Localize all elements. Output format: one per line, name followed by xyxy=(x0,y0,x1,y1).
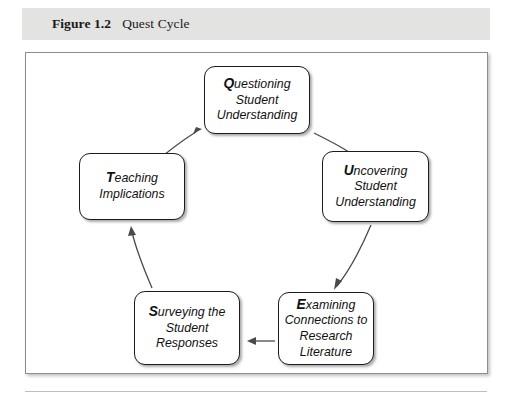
node-questioning-line-2: Student xyxy=(236,93,279,109)
node-uncovering-rest: ncovering xyxy=(354,164,408,178)
node-questioning[interactable]: Questioning Student Understanding xyxy=(204,66,310,134)
node-examining-line-2: Connections to xyxy=(285,313,368,329)
node-uncovering-line-2: Student xyxy=(354,179,397,195)
node-uncovering-initial: U xyxy=(344,163,354,178)
node-teaching-initial: T xyxy=(106,170,114,185)
node-examining-line-1: Examining xyxy=(297,297,356,314)
arrow-surveying-to-teaching xyxy=(128,226,152,288)
arrow-uncovering-to-examining xyxy=(334,225,371,290)
node-questioning-initial: Q xyxy=(223,76,234,91)
node-teaching-rest: eaching xyxy=(115,171,158,185)
figure-frame: Questioning Student Understanding Uncove… xyxy=(25,52,488,374)
node-surveying-rest: urveying the xyxy=(158,305,226,319)
node-examining-line-4: Literature xyxy=(300,345,352,361)
node-surveying-line-3: Responses xyxy=(156,336,218,352)
figure-caption-label: Figure 1.2 xyxy=(52,16,111,31)
node-examining-initial: E xyxy=(297,297,306,312)
figure-caption: Figure 1.2Quest Cycle xyxy=(22,0,190,48)
node-surveying-line-1: Surveying the xyxy=(149,304,226,321)
node-questioning-line-3: Understanding xyxy=(217,108,298,124)
page-bottom-rule xyxy=(25,391,487,392)
figure-caption-title: Quest Cycle xyxy=(122,16,189,31)
node-uncovering-line-1: Uncovering xyxy=(344,163,408,180)
node-examining[interactable]: Examining Connections to Research Litera… xyxy=(278,292,374,365)
node-uncovering[interactable]: Uncovering Student Understanding xyxy=(322,151,429,222)
quest-cycle-diagram: Questioning Student Understanding Uncove… xyxy=(26,53,487,373)
node-teaching[interactable]: Teaching Implications xyxy=(79,153,185,220)
figure-caption-band: Figure 1.2Quest Cycle xyxy=(22,8,490,40)
node-surveying[interactable]: Surveying the Student Responses xyxy=(134,291,240,365)
node-surveying-initial: S xyxy=(149,304,158,319)
node-questioning-line-1: Questioning xyxy=(223,76,290,93)
node-teaching-line-1: Teaching xyxy=(106,170,158,187)
arrow-examining-to-surveying xyxy=(247,337,275,345)
node-teaching-line-2: Implications xyxy=(99,187,164,203)
node-examining-rest: xamining xyxy=(306,298,356,312)
node-questioning-rest: uestioning xyxy=(234,77,291,91)
node-uncovering-line-3: Understanding xyxy=(335,195,416,211)
node-surveying-line-2: Student xyxy=(166,321,209,337)
node-examining-line-3: Research xyxy=(299,329,352,345)
